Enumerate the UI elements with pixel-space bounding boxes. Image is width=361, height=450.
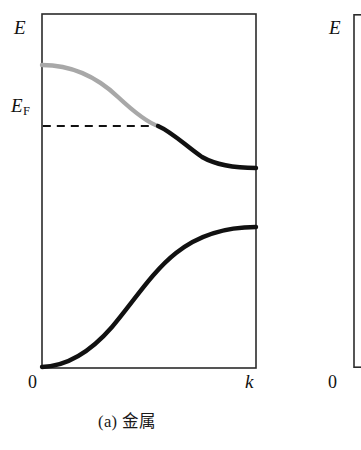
fermi-level-label-subscript: F (23, 104, 30, 118)
panel-b-origin-label: 0 (328, 373, 337, 391)
band-diagram-figure: E EF 0 k E 0 (a) 金属 (0, 0, 361, 450)
panel-a-plot-frame (42, 14, 256, 368)
panel-a-origin-label: 0 (28, 373, 37, 391)
panel-b-y-axis-label: E (329, 18, 341, 37)
fermi-level-label-base: E (11, 95, 23, 116)
panel-a-y-axis-label: E (14, 18, 26, 37)
figure-caption: (a) 金属 (98, 414, 157, 431)
plot-canvas (0, 0, 361, 450)
fermi-level-label: EF (11, 96, 30, 115)
panel-a-x-axis-label: k (245, 372, 253, 391)
